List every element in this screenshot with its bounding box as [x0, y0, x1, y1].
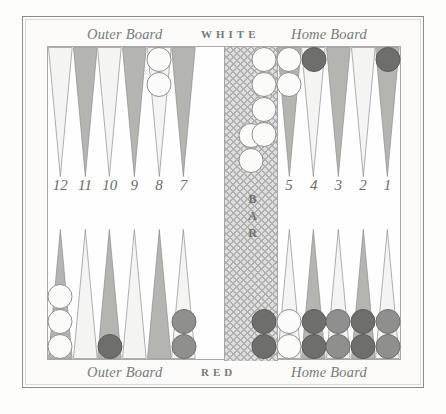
checker-red[interactable]: [326, 334, 351, 359]
label-top-home-board: Home Board: [291, 26, 367, 43]
point-number-5: 5: [277, 177, 302, 231]
checker-stack[interactable]: [301, 47, 326, 72]
point-number-4: 4: [301, 177, 326, 231]
point-bottom-5[interactable]: [277, 229, 302, 359]
point-top-7[interactable]: [171, 47, 196, 177]
point-number-1: 1: [375, 177, 400, 231]
checker-stack[interactable]: [97, 334, 122, 359]
quadrant-top-outer: [48, 47, 196, 177]
label-bottom-outer-board: Outer Board: [87, 364, 162, 381]
point-numbers-outer: 121110987: [48, 177, 196, 231]
checker-white[interactable]: [252, 97, 277, 122]
checker-white[interactable]: [276, 309, 301, 334]
checker-white[interactable]: [146, 47, 171, 72]
caption-row-bottom: Outer Board RED Home Board: [23, 359, 425, 385]
point-bottom-11[interactable]: [73, 229, 98, 359]
label-bottom-player-red: RED: [201, 366, 236, 378]
caption-row-top: Outer Board WHITE Home Board: [23, 21, 425, 47]
point-top-8[interactable]: [147, 47, 172, 177]
checker-stack[interactable]: [276, 309, 301, 359]
checker-white-on-bar[interactable]: [239, 148, 264, 173]
checker-stack[interactable]: [252, 47, 277, 147]
checker-red[interactable]: [375, 334, 400, 359]
checker-white[interactable]: [48, 334, 73, 359]
checker-red[interactable]: [171, 334, 196, 359]
point-bottom-3[interactable]: [326, 229, 351, 359]
point-top-9[interactable]: [122, 47, 147, 177]
point-number-9: 9: [122, 177, 147, 231]
quadrant-bottom-outer: [48, 229, 196, 359]
checker-white[interactable]: [48, 284, 73, 309]
point-top-3[interactable]: [326, 47, 351, 177]
point-number-8: 8: [147, 177, 172, 231]
point-triangle-icon: [351, 47, 376, 177]
backgammon-diagram-page: Outer Board WHITE Home Board 121110987 6…: [0, 0, 446, 414]
checker-stack[interactable]: [252, 309, 277, 359]
checker-stack[interactable]: [48, 284, 73, 359]
checker-red[interactable]: [171, 309, 196, 334]
point-number-10: 10: [97, 177, 122, 231]
point-top-11[interactable]: [73, 47, 98, 177]
point-triangle-icon: [122, 47, 147, 177]
checker-stack[interactable]: [350, 309, 375, 359]
checker-white[interactable]: [276, 47, 301, 72]
point-number-11: 11: [73, 177, 98, 231]
checker-red[interactable]: [375, 309, 400, 334]
point-bottom-8[interactable]: [147, 229, 172, 359]
label-top-outer-board: Outer Board: [87, 26, 162, 43]
point-number-7: 7: [171, 177, 196, 231]
point-bottom-10[interactable]: [97, 229, 122, 359]
point-triangle-icon: [122, 229, 147, 359]
checker-red[interactable]: [350, 334, 375, 359]
point-triangle-icon: [73, 229, 98, 359]
checker-red[interactable]: [252, 309, 277, 334]
point-top-2[interactable]: [351, 47, 376, 177]
checker-stack[interactable]: [146, 47, 171, 97]
board-frame: Outer Board WHITE Home Board 121110987 6…: [22, 16, 424, 388]
checker-red[interactable]: [375, 47, 400, 72]
checker-red[interactable]: [301, 334, 326, 359]
checker-white[interactable]: [48, 309, 73, 334]
checker-red[interactable]: [301, 47, 326, 72]
playing-surface: 121110987 654321 BAR: [47, 46, 401, 360]
point-top-10[interactable]: [97, 47, 122, 177]
point-top-5[interactable]: [277, 47, 302, 177]
checker-white[interactable]: [276, 334, 301, 359]
point-bottom-9[interactable]: [122, 229, 147, 359]
checker-red[interactable]: [97, 334, 122, 359]
point-bottom-2[interactable]: [351, 229, 376, 359]
point-triangle-icon: [171, 47, 196, 177]
label-top-player-white: WHITE: [201, 28, 260, 40]
checker-stack[interactable]: [171, 309, 196, 359]
checker-red[interactable]: [301, 309, 326, 334]
checker-stack[interactable]: [375, 309, 400, 359]
point-top-4[interactable]: [301, 47, 326, 177]
point-bottom-4[interactable]: [301, 229, 326, 359]
point-top-12[interactable]: [48, 47, 73, 177]
checker-red[interactable]: [252, 334, 277, 359]
point-number-2: 2: [351, 177, 376, 231]
checker-red[interactable]: [326, 309, 351, 334]
checker-white[interactable]: [276, 72, 301, 97]
checker-stack[interactable]: [276, 47, 301, 97]
point-triangle-icon: [48, 47, 73, 177]
point-triangle-icon: [97, 47, 122, 177]
checker-white[interactable]: [252, 72, 277, 97]
point-triangle-icon: [326, 47, 351, 177]
checker-stack[interactable]: [375, 47, 400, 72]
checker-white[interactable]: [146, 72, 171, 97]
label-bottom-home-board: Home Board: [291, 364, 367, 381]
checker-stack[interactable]: [326, 309, 351, 359]
point-number-3: 3: [326, 177, 351, 231]
checker-white[interactable]: [252, 122, 277, 147]
point-top-1[interactable]: [375, 47, 400, 177]
point-bottom-1[interactable]: [375, 229, 400, 359]
bar-label: BAR: [225, 187, 279, 247]
point-triangle-icon: [73, 47, 98, 177]
checker-red[interactable]: [350, 309, 375, 334]
checker-white[interactable]: [252, 47, 277, 72]
point-number-12: 12: [48, 177, 73, 231]
point-bottom-7[interactable]: [171, 229, 196, 359]
checker-stack[interactable]: [301, 309, 326, 359]
point-bottom-12[interactable]: [48, 229, 73, 359]
